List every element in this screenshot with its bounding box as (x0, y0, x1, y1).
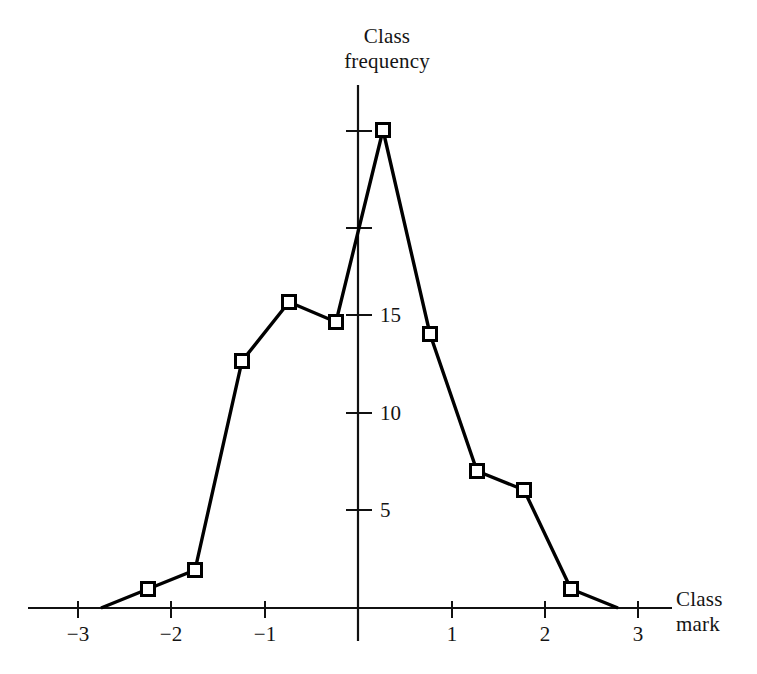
x-tick-label-2: 2 (525, 623, 565, 645)
x-axis-title-line1: Class mark (676, 587, 757, 637)
x-tick-label-1: 1 (432, 623, 472, 645)
x-axis-title: Class mark (676, 587, 757, 637)
y-axis-title: Class frequency (322, 24, 452, 74)
y-axis-title-line1: Class frequency (322, 24, 452, 74)
x-tick-label-neg2: −2 (151, 623, 191, 645)
x-tick-label-neg3: −3 (58, 623, 98, 645)
x-tick-label-3: 3 (618, 623, 658, 645)
frequency-polygon-chart: Class frequency Class mark −3 −2 −1 1 2 … (0, 0, 757, 674)
y-tick-label-10: 10 (380, 402, 401, 424)
x-tick-label-neg1: −1 (245, 623, 285, 645)
plot-area (0, 0, 757, 674)
frequency-polyline (101, 130, 618, 608)
y-tick-label-5: 5 (380, 499, 391, 521)
y-tick-label-15: 15 (380, 304, 401, 326)
